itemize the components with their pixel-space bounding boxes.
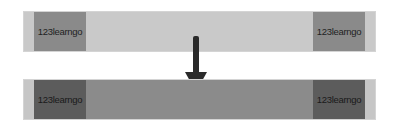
before-right-block: 123learngo [313, 12, 365, 51]
after-right-label: 123learngo [317, 94, 362, 105]
before-left-block: 123learngo [34, 12, 86, 51]
after-left-block: 123learngo [34, 80, 86, 119]
after-bar: 123learngo 123learngo [23, 79, 376, 120]
after-left-label: 123learngo [38, 94, 83, 105]
after-right-block: 123learngo [313, 80, 365, 119]
before-right-label: 123learngo [317, 26, 362, 37]
before-left-label: 123learngo [38, 26, 83, 37]
